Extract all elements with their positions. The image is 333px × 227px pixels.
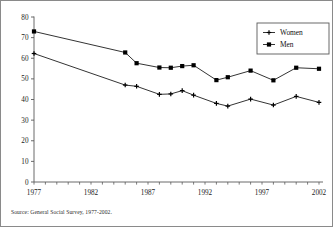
y-axis-tick-label: 70 [21,34,29,42]
data-point-women-1996 [248,97,253,102]
data-point-women-1989 [169,92,174,97]
line-chart-plot: 0102030405060708019771982198719921997200… [1,1,333,227]
data-point-women-1994 [226,104,231,109]
x-axis-tick-label: 1992 [198,189,213,197]
series-line-women [34,54,319,107]
x-axis-tick-label: 1977 [27,189,42,197]
y-axis-tick-label: 40 [21,96,29,104]
source-note: Source: General Social Survey, 1977-2002… [11,209,112,215]
y-axis-tick-label: 30 [21,117,29,125]
data-point-men-1998 [271,78,275,82]
series-women [32,51,322,108]
data-point-men-1994 [226,75,230,79]
chart-legend: WomenMen [257,23,329,54]
chart-figure: 0102030405060708019771982198719921997200… [0,0,333,227]
y-axis-tick-label: 60 [21,55,29,63]
data-point-women-1991 [191,93,196,98]
y-axis-tick-label: 0 [25,179,29,187]
data-point-men-1977 [32,29,36,33]
data-point-men-1988 [157,65,161,69]
data-point-women-1998 [271,103,276,108]
data-point-men-1989 [169,66,173,70]
data-point-women-1977 [32,51,37,56]
legend-label-men: Men [280,40,294,49]
data-point-women-2000 [294,94,299,99]
y-axis-tick-label: 10 [21,158,29,166]
data-point-women-1985 [123,83,128,88]
square-marker-icon [267,42,271,46]
y-axis-tick-label: 80 [21,14,29,22]
data-point-women-1993 [214,101,219,106]
data-point-men-1996 [249,69,253,73]
x-axis-tick-label: 2002 [312,189,327,197]
y-axis-tick-label: 50 [21,75,29,83]
legend-label-women: Women [280,28,303,37]
data-point-men-2000 [294,66,298,70]
x-axis-tick-label: 1982 [84,189,99,197]
data-point-men-1993 [214,78,218,82]
data-point-men-1991 [192,63,196,67]
data-point-men-1990 [180,64,184,68]
y-axis-tick-label: 20 [21,137,29,145]
data-point-women-1988 [157,92,162,97]
data-point-women-1990 [180,88,185,93]
data-point-men-1985 [123,50,127,54]
data-point-men-1986 [135,61,139,65]
x-axis-tick-label: 1987 [141,189,156,197]
data-point-men-2002 [317,67,321,71]
data-point-women-2002 [317,100,322,105]
data-point-women-1986 [134,84,139,89]
x-axis-tick-label: 1997 [255,189,270,197]
